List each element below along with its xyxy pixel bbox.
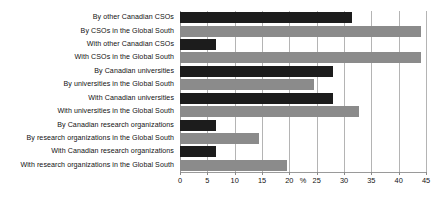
category-label: With other Canadian CSOs: [0, 38, 178, 51]
category-label: By Canadian universities: [0, 65, 178, 78]
category-label: With research organizations in the Globa…: [0, 159, 178, 172]
value-axis: 051015202530354045%: [180, 172, 426, 194]
tick-label: 20: [285, 177, 293, 184]
gridline: [426, 11, 427, 172]
bars-layer: [180, 11, 426, 172]
bar: [180, 52, 421, 63]
bar: [180, 106, 359, 117]
tick-mark: [235, 172, 236, 175]
bar: [180, 133, 259, 144]
category-label: By research organizations in the Global …: [0, 132, 178, 145]
tick-mark: [399, 172, 400, 175]
tick-mark: [289, 172, 290, 175]
tick-label: 45: [422, 177, 430, 184]
bar-row: [180, 11, 426, 24]
tick-mark: [371, 172, 372, 175]
bar-chart: By other Canadian CSOsBy CSOs in the Glo…: [0, 0, 443, 202]
bar-row: [180, 24, 426, 37]
bar-row: [180, 78, 426, 91]
bar: [180, 120, 216, 131]
bar-row: [180, 105, 426, 118]
bar: [180, 26, 421, 37]
tick-mark: [317, 172, 318, 175]
bar-row: [180, 65, 426, 78]
bar: [180, 39, 216, 50]
bar-row: [180, 132, 426, 145]
tick-mark: [180, 172, 181, 175]
tick-mark: [262, 172, 263, 175]
bar-row: [180, 92, 426, 105]
category-label: By Canadian research organizations: [0, 118, 178, 131]
tick-label: 0: [178, 177, 182, 184]
category-label: With Canadian universities: [0, 92, 178, 105]
tick-mark: [426, 172, 427, 175]
tick-mark: [207, 172, 208, 175]
tick-label: 25: [313, 177, 321, 184]
category-label: With CSOs in the Global South: [0, 51, 178, 64]
bar: [180, 12, 352, 23]
bar-row: [180, 145, 426, 158]
tick-label: 40: [395, 177, 403, 184]
bar: [180, 160, 287, 171]
axis-unit-label: %: [300, 177, 307, 184]
bar: [180, 146, 216, 157]
tick-label: 30: [340, 177, 348, 184]
tick-label: 10: [231, 177, 239, 184]
tick-label: 35: [367, 177, 375, 184]
category-label: With universities in the Global South: [0, 105, 178, 118]
bar: [180, 66, 333, 77]
category-label: By universities in the Global South: [0, 78, 178, 91]
bar-row: [180, 38, 426, 51]
category-label: With Canadian research organizations: [0, 145, 178, 158]
bar-row: [180, 118, 426, 131]
tick-label: 15: [258, 177, 266, 184]
plot-area: [180, 11, 426, 172]
bar-row: [180, 159, 426, 172]
category-label: By other Canadian CSOs: [0, 11, 178, 24]
category-label: By CSOs in the Global South: [0, 24, 178, 37]
tick-mark: [344, 172, 345, 175]
bar-row: [180, 51, 426, 64]
bar: [180, 93, 333, 104]
tick-label: 5: [205, 177, 209, 184]
category-axis: By other Canadian CSOsBy CSOs in the Glo…: [0, 11, 178, 172]
bar: [180, 79, 314, 90]
